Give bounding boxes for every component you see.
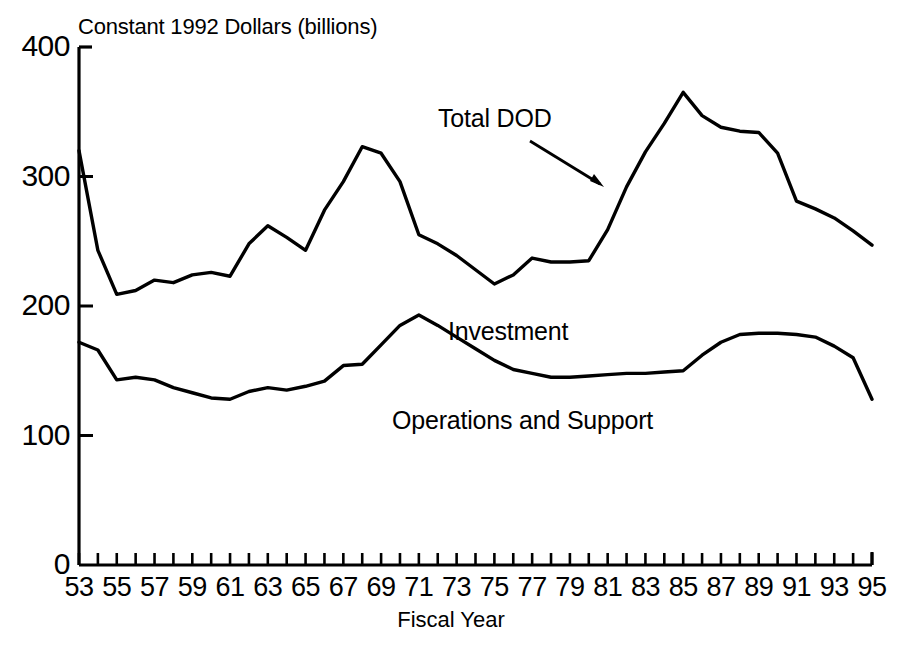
x-axis-tick-label: 95 (844, 572, 900, 602)
annotation-operations-and-support: Operations and Support (392, 406, 653, 435)
chart-container: Constant 1992 Dollars (billions) 0100200… (0, 0, 902, 645)
annotation-total-dod: Total DOD (438, 104, 552, 133)
x-axis-title: Fiscal Year (0, 607, 902, 633)
annotation-investment: Investment (448, 317, 568, 346)
